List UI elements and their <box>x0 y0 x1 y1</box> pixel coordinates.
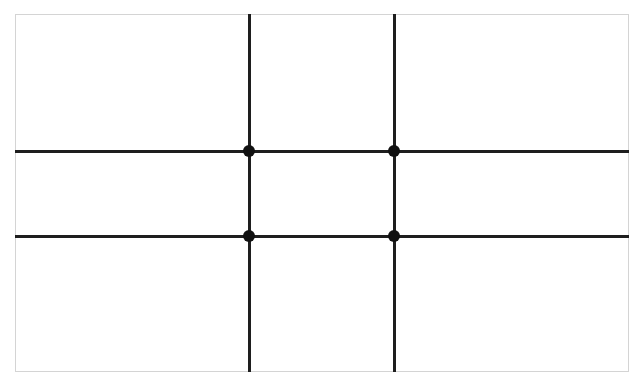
vertical-line-right <box>393 14 396 372</box>
frame-border <box>15 14 629 372</box>
horizontal-line-bottom <box>15 235 629 238</box>
intersection-dot-bottom-left <box>243 230 255 242</box>
intersection-dot-bottom-right <box>388 230 400 242</box>
intersection-dot-top-left <box>243 145 255 157</box>
intersection-dot-top-right <box>388 145 400 157</box>
horizontal-line-top <box>15 150 629 153</box>
vertical-line-left <box>248 14 251 372</box>
